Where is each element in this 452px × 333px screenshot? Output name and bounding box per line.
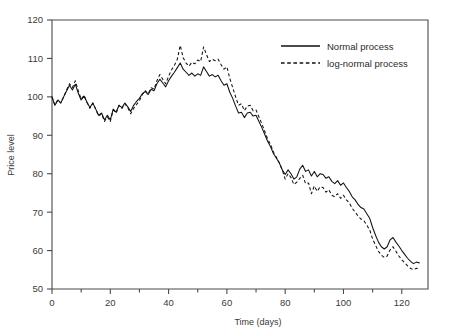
x-tick-label: 80 bbox=[280, 297, 291, 308]
y-tick-label: 120 bbox=[27, 14, 43, 25]
x-tick-label: 40 bbox=[163, 297, 174, 308]
y-tick-label: 70 bbox=[32, 207, 43, 218]
x-tick-label: 20 bbox=[105, 297, 116, 308]
x-tick-label: 0 bbox=[49, 297, 54, 308]
legend-label-normal-process: Normal process bbox=[327, 41, 394, 52]
series-line-normal-process bbox=[52, 63, 419, 264]
x-axis-title: Time (days) bbox=[234, 317, 281, 327]
y-tick-label: 80 bbox=[32, 168, 43, 179]
x-tick-label: 100 bbox=[336, 297, 352, 308]
line-chart: 020406080100120 5060708090100110120 Time… bbox=[0, 0, 452, 333]
chart-container: 020406080100120 5060708090100110120 Time… bbox=[0, 0, 452, 333]
x-tick-label: 60 bbox=[222, 297, 233, 308]
x-tick-label: 120 bbox=[394, 297, 410, 308]
y-tick-label: 100 bbox=[27, 91, 43, 102]
data-series-group bbox=[52, 45, 419, 269]
y-tick-label: 50 bbox=[32, 283, 43, 294]
y-axis-ticks bbox=[47, 20, 52, 289]
legend-label-log-normal-process: log-normal process bbox=[327, 58, 408, 69]
chart-legend: Normal process log-normal process bbox=[281, 41, 408, 69]
x-axis-tick-labels: 020406080100120 bbox=[49, 297, 409, 308]
y-tick-label: 90 bbox=[32, 130, 43, 141]
y-tick-label: 60 bbox=[32, 245, 43, 256]
series-line-log-normal-process bbox=[52, 45, 419, 269]
y-tick-label: 110 bbox=[28, 53, 43, 64]
y-axis-tick-labels: 5060708090100110120 bbox=[27, 14, 43, 294]
x-axis-ticks bbox=[52, 289, 402, 294]
y-axis-title: Price level bbox=[6, 134, 16, 176]
